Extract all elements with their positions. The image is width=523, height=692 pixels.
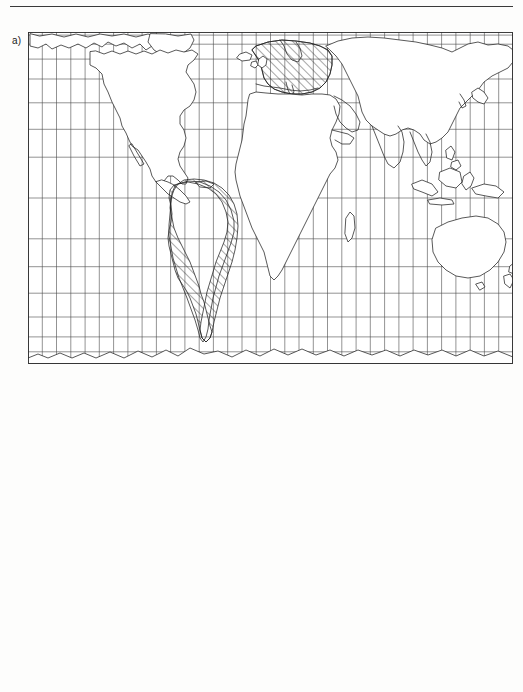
- figure-page: a): [0, 0, 523, 692]
- top-rule-divider: [10, 6, 513, 7]
- map-panel-a: a): [0, 14, 523, 359]
- panel-label-a: a): [12, 36, 21, 46]
- world-map-equal-area: [28, 32, 513, 364]
- map-panel-b: b): [0, 365, 523, 692]
